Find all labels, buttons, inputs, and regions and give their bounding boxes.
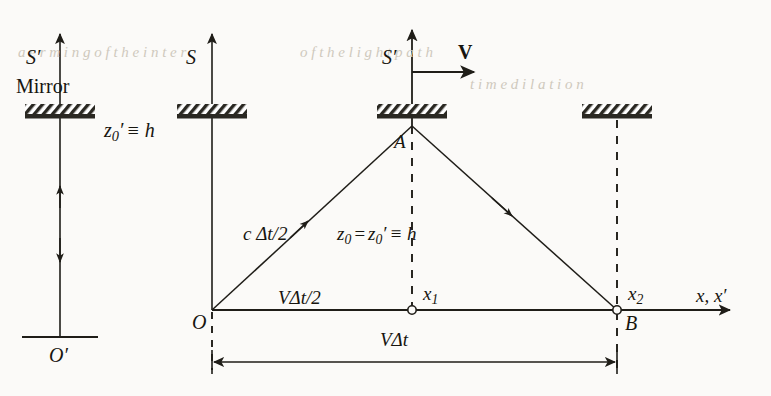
left-origin-label: O′ [49, 345, 68, 365]
mirror-s-bar [177, 114, 247, 119]
x1-subscript: 1 [431, 292, 438, 307]
velocity-label: V [458, 42, 472, 62]
full-base-label: VΔt [380, 330, 408, 349]
mirror-s-hatch [177, 104, 247, 115]
descending-ray-arrowhead [492, 198, 512, 216]
x1-label: x1 [423, 284, 438, 307]
left-mirror [25, 104, 95, 119]
mirror-at-s-prime [377, 104, 447, 119]
height-equals: = [353, 223, 366, 244]
s-frame-label: S [186, 47, 196, 67]
half-base-label: VΔt/2 [278, 288, 321, 307]
x2-label: x2 [628, 284, 643, 307]
mirror-sp-hatch [377, 104, 447, 115]
height-z0-sub: 0 [344, 232, 351, 247]
mirror-b-bar [582, 114, 652, 119]
left-frame-label: S′ [26, 47, 40, 67]
x-axis-label: x, x′ [696, 286, 727, 305]
left-mirror-hatch [25, 104, 95, 115]
x2-subscript: 2 [636, 292, 643, 307]
height-identical-h: ≡ h [389, 223, 416, 244]
page-bleed-text-3: t i m e d i l a t i o n [470, 76, 584, 93]
relativity-light-clock-figure: a e r m i n g o f t h e i n t e r o f t … [0, 0, 771, 396]
mirror-b-hatch [582, 104, 652, 115]
descending-light-ray [412, 126, 617, 310]
mirror-at-s [177, 104, 247, 119]
left-mirror-bar [25, 114, 95, 119]
mirror-at-b [582, 104, 652, 119]
mirror-caption: Mirror [16, 76, 69, 96]
origin-label-o: O [192, 312, 206, 332]
end-label-b: B [625, 313, 637, 333]
left-height-sub: 0 [112, 128, 119, 144]
left-height-prime: ′ [119, 119, 123, 141]
height-equality-label: z0=z0′≡ h [337, 224, 417, 247]
left-height-ident: ≡ h [126, 119, 155, 141]
s-prime-frame-label: S′ [382, 47, 396, 67]
ascending-light-ray [212, 126, 412, 310]
x2-point-marker [613, 306, 621, 314]
height-z0p-prime: ′ [382, 223, 386, 244]
x1-point-marker [408, 306, 416, 314]
page-bleed-text-2: o f t h e l i g h t p a t h [300, 44, 433, 61]
ascending-ray-arrowhead [290, 221, 308, 238]
left-height-z: z [104, 119, 112, 141]
left-height-label: z0′≡ h [104, 120, 155, 144]
mirror-sp-bar [377, 114, 447, 119]
apex-label-a: A [394, 132, 406, 151]
page-bleed-text-1: a e r m i n g o f t h e i n t e r [18, 44, 186, 61]
v-delta-t-dimension [212, 350, 617, 374]
ray-length-label: c Δt/2 [243, 224, 287, 243]
